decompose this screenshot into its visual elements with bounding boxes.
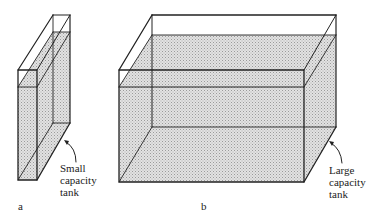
small-tank-leader	[66, 142, 76, 162]
tanks-diagram	[0, 0, 381, 223]
panel-a-caption: a	[18, 200, 23, 212]
large-tank-label: Large capacity tank	[329, 164, 366, 200]
small-tank-label: Small capacity tank	[60, 162, 97, 198]
large-tank-label-line1: Large	[329, 164, 366, 176]
large-tank-label-line3: tank	[329, 188, 366, 200]
small-tank-label-line3: tank	[60, 186, 97, 198]
small-tank-label-line2: capacity	[60, 174, 97, 186]
large-tank	[119, 15, 342, 182]
large-tank-leader	[331, 143, 342, 163]
small-tank	[18, 15, 76, 180]
small-tank-label-line1: Small	[60, 162, 97, 174]
large-tank-label-line2: capacity	[329, 176, 366, 188]
panel-b-caption: b	[201, 200, 207, 212]
